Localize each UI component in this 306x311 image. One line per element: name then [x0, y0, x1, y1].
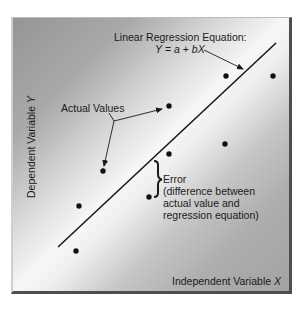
- data-point: [166, 103, 171, 108]
- error-desc-line3: regression equation): [163, 209, 259, 221]
- error-desc-line2: actual value and: [163, 197, 240, 209]
- data-point: [222, 141, 227, 146]
- data-point: [146, 194, 151, 199]
- data-point: [270, 73, 275, 78]
- actual-values-label: Actual Values: [61, 102, 124, 114]
- equation-title: Linear Regression Equation:: [114, 31, 247, 43]
- y-axis-var: Y: [25, 95, 37, 103]
- equation-plus: +: [180, 43, 192, 55]
- x-axis-label: Independent Variable X: [172, 275, 282, 287]
- y-axis-text: Dependent Variable: [25, 103, 37, 198]
- data-point: [223, 73, 228, 78]
- regression-diagram: Linear Regression Equation: Y = a + bX A…: [0, 0, 306, 311]
- arrow-down-icon: [104, 121, 114, 166]
- equation-arrow-icon: [204, 50, 243, 69]
- data-point: [100, 168, 105, 173]
- equation-formula: Y = a + bX: [155, 43, 206, 55]
- curly-brace-icon: [154, 161, 162, 197]
- error-label: Error: [163, 173, 187, 185]
- equation-equals: =: [162, 43, 174, 55]
- error-desc-line1: (difference between: [163, 185, 255, 197]
- y-axis-label: Dependent Variable Y: [25, 95, 37, 198]
- data-point: [76, 203, 81, 208]
- equation-x: X: [197, 43, 206, 55]
- data-points: [73, 73, 275, 253]
- x-axis-var: X: [273, 275, 282, 287]
- actual-values-tick: [109, 113, 114, 121]
- data-point: [166, 151, 171, 156]
- data-point: [73, 248, 78, 253]
- x-axis-text: Independent Variable: [172, 275, 274, 287]
